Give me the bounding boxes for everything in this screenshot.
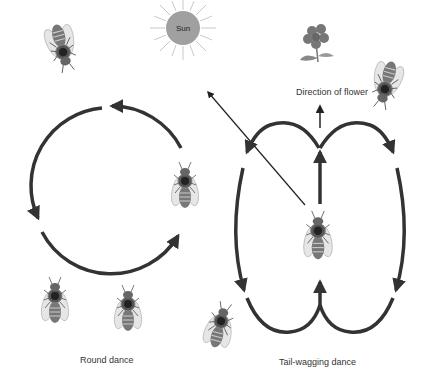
flower-icon [300, 24, 334, 62]
bee-icon [199, 299, 242, 352]
sun-icon: Sun [150, 0, 216, 60]
bee-icon [301, 211, 335, 259]
tail-wagging-dance-label: Tail-wagging dance [279, 357, 356, 367]
round-dance-path [31, 106, 181, 274]
bee-icon [39, 277, 71, 323]
sun-direction-arrow [208, 92, 305, 205]
bee-icon [364, 57, 409, 112]
bee-icon [169, 162, 201, 208]
bee-icon [112, 285, 144, 331]
round-dance-label: Round dance [80, 355, 134, 365]
sun-label: Sun [176, 24, 190, 33]
flower-direction-label: Direction of flower [296, 87, 368, 97]
bee-icon [40, 20, 85, 75]
bee-dance-diagram: Sun [0, 0, 433, 382]
